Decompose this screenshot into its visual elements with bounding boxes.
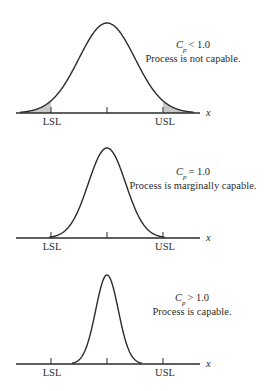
panel-capable: x LSL USL Cp> 1.0 Process is capable.: [16, 275, 232, 378]
lsl-label: LSL: [43, 116, 62, 127]
capability-description: Process is not capable.: [145, 53, 240, 64]
capability-description: Process is capable.: [152, 306, 231, 317]
usl-label: USL: [155, 116, 175, 127]
process-capability-figure: x LSL USL Cp< 1.0 Process is not capable…: [0, 0, 266, 391]
normal-curve: [72, 275, 142, 363]
x-axis-label: x: [205, 358, 211, 369]
cp-condition: Cp< 1.0: [176, 39, 210, 54]
cp-condition: Cp> 1.0: [175, 292, 209, 307]
normal-curve: [49, 148, 165, 237]
lsl-label: LSL: [43, 367, 62, 378]
panel-marginally-capable: x LSL USL Cp= 1.0 Process is marginally …: [16, 148, 256, 252]
lsl-label: LSL: [43, 241, 62, 252]
usl-label: USL: [155, 367, 175, 378]
normal-curve: [20, 23, 194, 112]
usl-label: USL: [155, 241, 175, 252]
cp-condition: Cp= 1.0: [176, 166, 210, 181]
x-axis-label: x: [205, 107, 211, 118]
capability-description: Process is marginally capable.: [130, 180, 257, 191]
x-axis-label: x: [205, 232, 211, 243]
panel-not-capable: x LSL USL Cp< 1.0 Process is not capable…: [16, 23, 241, 127]
